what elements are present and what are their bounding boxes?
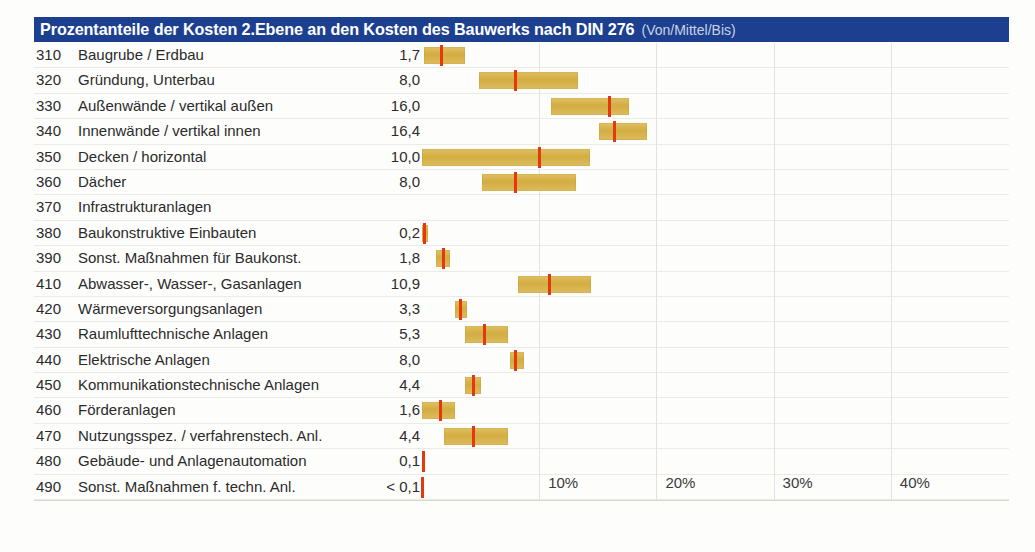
gridline-20 [656,424,657,449]
gridline-20 [656,297,657,322]
gridline-10 [539,449,540,474]
gridline-40 [891,246,892,271]
row-code: 480 [36,452,76,469]
table-row[interactable]: 370Infrastrukturanlagen [34,195,1009,220]
gridline-10 [539,195,540,220]
row-code: 430 [36,325,76,342]
gridline-30 [774,272,775,297]
row-label: Baugrube / Erdbau [78,46,204,63]
table-row[interactable]: 350Decken / horizontal10,0 [34,145,1009,170]
gridline-10 [539,398,540,423]
chart-title-bar: Prozentanteile der Kosten 2.Ebene an den… [34,17,1009,42]
gridline-30 [774,68,775,93]
x-axis: 10%20%30%40% [34,472,1009,498]
row-code: 410 [36,275,76,292]
row-code: 440 [36,351,76,368]
axis-baseline [34,500,1009,501]
table-row[interactable]: 360Dächer8,0 [34,170,1009,195]
table-row[interactable]: 390Sonst. Maßnahmen für Baukonst.1,8 [34,246,1009,271]
gridline-20 [656,348,657,373]
gridline-40 [891,297,892,322]
table-row[interactable]: 460Förderanlagen1,6 [34,398,1009,423]
row-code: 340 [36,122,76,139]
gridline-30 [774,398,775,423]
row-label: Decken / horizontal [78,148,206,165]
mean-marker [423,223,426,244]
table-row[interactable]: 440Elektrische Anlagen8,0 [34,348,1009,373]
gridline-30 [774,119,775,144]
table-row[interactable]: 340Innenwände / vertikal innen16,4 [34,119,1009,144]
row-plot-cell [422,373,1009,397]
table-row[interactable]: 310Baugrube / Erdbau1,7 [34,43,1009,68]
row-value: 5,3 [292,325,420,342]
table-row[interactable]: 330Außenwände / vertikal außen16,0 [34,94,1009,119]
row-value: 1,8 [292,249,420,266]
range-bar [422,149,590,166]
row-label: Nutzungsspez. / verfahrenstech. Anl. [78,427,322,444]
row-value: 4,4 [292,427,420,444]
row-plot-cell [422,246,1009,270]
gridline-30 [774,221,775,246]
table-row[interactable]: 420Wärmeversorgungsanlagen3,3 [34,297,1009,322]
mean-marker [538,147,541,168]
gridline-40 [891,43,892,68]
mean-marker [608,96,611,117]
row-plot-cell [422,145,1009,169]
table-row[interactable]: 470Nutzungsspez. / verfahrenstech. Anl.4… [34,424,1009,449]
gridline-40 [891,94,892,119]
row-value: 8,0 [292,173,420,190]
table-row[interactable]: 450Kommunikationstechnische Anlagen4,4 [34,373,1009,398]
gridline-30 [774,322,775,347]
gridline-10 [539,348,540,373]
gridline-10 [539,297,540,322]
table-row[interactable]: 480Gebäude- und Anlagenautomation0,1 [34,449,1009,474]
row-code: 330 [36,97,76,114]
table-row[interactable]: 380Baukonstruktive Einbauten0,2 [34,221,1009,246]
gridline-20 [656,449,657,474]
range-bar [465,326,507,343]
range-bar [482,174,576,191]
row-label: Wärmeversorgungsanlagen [78,300,262,317]
row-label: Sonst. Maßnahmen für Baukonst. [78,249,301,266]
table-row[interactable]: 320Gründung, Unterbau8,0 [34,68,1009,93]
range-bar [551,98,630,115]
range-bar [518,276,591,293]
row-code: 470 [36,427,76,444]
gridline-40 [891,119,892,144]
row-value: 1,6 [292,401,420,418]
x-tick-label: 30% [783,474,813,491]
table-row[interactable]: 430Raumlufttechnische Anlagen5,3 [34,322,1009,347]
table-row[interactable]: 410Abwasser-, Wasser-, Gasanlagen10,9 [34,272,1009,297]
gridline-10 [539,373,540,398]
row-value: 10,0 [292,148,420,165]
row-label: Abwasser-, Wasser-, Gasanlagen [78,275,302,292]
row-value: 1,7 [292,46,420,63]
gridline-20 [656,119,657,144]
gridline-30 [774,348,775,373]
row-value: 16,0 [292,97,420,114]
row-label: Elektrische Anlagen [78,351,210,368]
row-plot-cell [422,297,1009,321]
gridline-30 [774,94,775,119]
row-value: 10,9 [292,275,420,292]
range-bar [444,428,507,445]
gridline-20 [656,272,657,297]
row-label: Infrastrukturanlagen [78,198,211,215]
gridline-40 [891,145,892,170]
gridline-40 [891,272,892,297]
gridline-20 [656,195,657,220]
mean-marker [440,45,443,66]
row-plot-cell [422,424,1009,448]
gridline-10 [539,94,540,119]
row-value: 0,1 [292,452,420,469]
row-code: 450 [36,376,76,393]
mean-marker [514,172,517,193]
row-code: 380 [36,224,76,241]
row-value: 8,0 [292,71,420,88]
row-plot-cell [422,348,1009,372]
row-value: 3,3 [292,300,420,317]
row-value: 8,0 [292,351,420,368]
range-bar [599,123,647,140]
chart-sheet: Prozentanteile der Kosten 2.Ebene an den… [0,0,1035,552]
gridline-10 [539,424,540,449]
